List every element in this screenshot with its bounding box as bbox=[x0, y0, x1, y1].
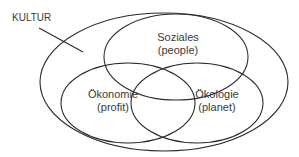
sustainability-venn-diagram: KULTUR Soziales (people) Ökonomie (profi… bbox=[0, 0, 299, 157]
soziales-title: Soziales bbox=[148, 31, 208, 44]
soziales-label: Soziales (people) bbox=[148, 31, 208, 57]
oekonomie-subtitle: (profit) bbox=[80, 101, 146, 114]
kultur-pointer-line bbox=[39, 28, 83, 52]
oekonomie-title: Ökonomie bbox=[80, 88, 146, 101]
oekonomie-label: Ökonomie (profit) bbox=[80, 88, 146, 114]
oekologie-label: Ökologie (planet) bbox=[186, 88, 248, 114]
oekologie-subtitle: (planet) bbox=[186, 101, 248, 114]
oekologie-title: Ökologie bbox=[186, 88, 248, 101]
kultur-label: KULTUR bbox=[12, 11, 51, 24]
soziales-subtitle: (people) bbox=[148, 44, 208, 57]
